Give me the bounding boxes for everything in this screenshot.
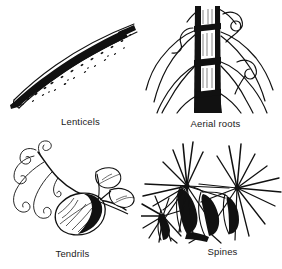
panel-caption-tendrils: Tendrils: [0, 248, 141, 259]
tendrils-vine-illustration: [0, 138, 141, 246]
panel-caption-lenticels: Lenticels: [0, 116, 141, 127]
stem-modifications-figure: Lenticels: [0, 0, 282, 269]
spines-cactus-illustration: [141, 140, 282, 244]
lenticels-branch-illustration: [0, 4, 141, 110]
aerial-roots-stem-illustration: [141, 0, 282, 114]
panel-spines: Spines: [141, 140, 282, 266]
panel-caption-spines: Spines: [141, 246, 282, 257]
panel-lenticels: Lenticels: [0, 4, 141, 132]
panel-caption-aerial-roots: Aerial roots: [141, 118, 282, 129]
panel-tendrils: Tendrils: [0, 138, 141, 266]
panel-aerial-roots: Aerial roots: [141, 0, 282, 132]
